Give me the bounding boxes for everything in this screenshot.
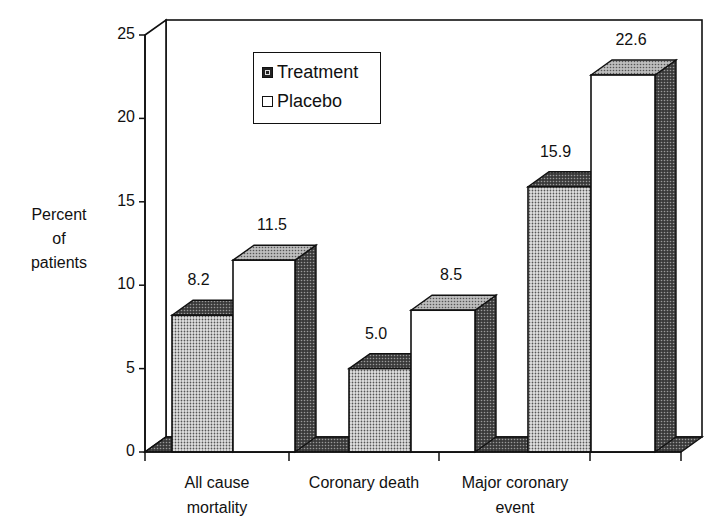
y-axis-label-line: Percent [14,205,104,224]
value-label: 15.9 [536,142,576,161]
y-axis-label-line: patients [14,253,104,272]
legend-label: Placebo [277,91,342,112]
value-label: 8.2 [179,270,219,289]
bar-front [172,315,233,452]
y-axis-label-line: of [14,229,104,248]
placebo-swatch-icon [262,96,273,107]
y-axis-label: Percent of patients [14,205,104,272]
bar-side [475,295,496,452]
legend: Treatment Placebo [253,52,381,124]
bar-front [411,310,475,452]
side-wall [145,20,166,452]
bar-front [233,260,295,452]
value-label: 22.6 [611,30,651,49]
placebo-bar [233,245,316,452]
legend-item-treatment: Treatment [262,62,358,83]
bar-side [295,245,316,452]
value-label: 11.5 [252,215,292,234]
y-tick-label: 5 [95,359,135,377]
y-tick-label: 10 [95,275,135,293]
value-label: 5.0 [356,324,396,343]
placebo-bar [411,295,496,452]
y-tick-label: 15 [95,192,135,210]
legend-item-placebo: Placebo [262,91,342,112]
bar-front [528,187,591,452]
placebo-bar [591,60,676,452]
bar-front [349,369,411,452]
bar-side [655,60,676,452]
value-label: 8.5 [431,265,471,284]
treatment-swatch-icon [262,67,273,78]
category-label: Coronary death [284,470,444,495]
legend-label: Treatment [277,62,358,83]
y-tick-label: 25 [95,25,135,43]
y-tick-label: 20 [95,108,135,126]
y-tick-label: 0 [95,442,135,460]
bar-front [591,75,655,452]
category-label: Major coronaryevent [435,470,595,520]
category-label: All causemortality [137,470,297,520]
